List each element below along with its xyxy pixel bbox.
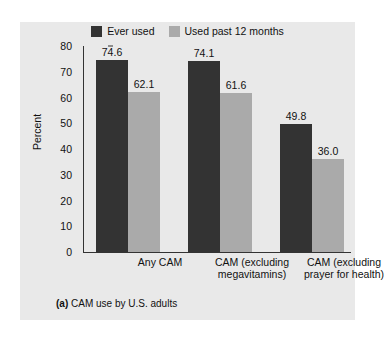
category-label-line: CAM (excluding	[268, 256, 388, 268]
caption-tag: (a)	[56, 298, 68, 309]
legend-label-ever-used: Ever used	[107, 26, 154, 37]
y-axis-tick-label: 20	[60, 195, 72, 207]
y-axis-tick-label: 30	[60, 169, 72, 181]
bar-ever-used: 74.1	[188, 61, 220, 252]
legend-swatch-used-past-12-months	[169, 26, 180, 37]
y-axis-tick-labels: 80706050403020100	[50, 46, 78, 252]
bar-used-past-12-months: 62.1	[128, 92, 160, 252]
bars-area: 74.662.174.161.649.836.0	[84, 46, 351, 252]
y-axis-tick-label: 50	[60, 117, 72, 129]
y-axis-tick-label: 40	[60, 143, 72, 155]
y-axis-tick-label: 10	[60, 220, 72, 232]
y-axis-tick-label: 70	[60, 66, 72, 78]
category-label-line: prayer for health)	[268, 268, 388, 280]
bar-value-label: 74.6	[102, 46, 122, 58]
bar-value-label: 61.6	[226, 79, 246, 91]
legend-swatch-ever-used	[91, 26, 102, 37]
bar-group: 74.662.1	[96, 46, 160, 252]
bar-used-past-12-months: 36.0	[312, 159, 344, 252]
figure-panel: Ever used Used past 12 months Percent 80…	[20, 22, 355, 320]
bar-value-label: 36.0	[318, 145, 338, 157]
y-axis-tick-label: 60	[60, 92, 72, 104]
bar-group: 49.836.0	[280, 46, 344, 252]
x-axis-line	[83, 252, 351, 253]
y-axis-title: Percent	[31, 77, 43, 187]
plot-area: Percent 80706050403020100 74.662.174.161…	[20, 46, 355, 286]
bar-ever-used: 49.8	[280, 124, 312, 252]
x-axis-category-label: CAM (excludingprayer for health)	[268, 256, 388, 280]
figure-caption: (a) CAM use by U.S. adults	[56, 298, 177, 309]
bar-value-label: 74.1	[194, 47, 214, 59]
legend-item-used-past-12-months: Used past 12 months	[169, 26, 284, 37]
bar-group: 74.161.6	[188, 46, 252, 252]
legend-label-used-past-12-months: Used past 12 months	[185, 26, 284, 37]
legend-item-ever-used: Ever used	[91, 26, 154, 37]
x-axis-category-labels: Any CAMCAM (excludingmegavitamins)CAM (e…	[84, 256, 351, 290]
chart-legend: Ever used Used past 12 months	[20, 26, 355, 37]
y-axis-tick-label: 80	[60, 40, 72, 52]
bar-value-label: 62.1	[134, 78, 154, 90]
bar-value-label: 49.8	[286, 110, 306, 122]
bar-ever-used: 74.6	[96, 60, 128, 252]
bar-used-past-12-months: 61.6	[220, 93, 252, 252]
y-axis-tick-label: 0	[66, 246, 72, 258]
caption-text: CAM use by U.S. adults	[71, 298, 177, 309]
